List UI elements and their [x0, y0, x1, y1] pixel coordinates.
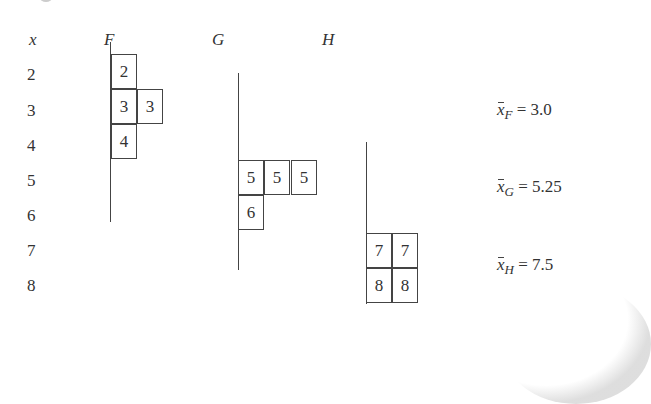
group-h-cell: 7	[366, 233, 392, 268]
mean-symbol: x	[497, 100, 505, 119]
mean-subscript: F	[505, 107, 513, 122]
scan-artifact	[40, 0, 52, 2]
group-h-cell: 8	[366, 268, 392, 303]
mean-value: = 3.0	[517, 100, 552, 119]
axis-label-x: x	[29, 30, 37, 50]
group-g-cell: 5	[264, 160, 290, 195]
row-label-5: 5	[27, 171, 41, 191]
mean-subscript: H	[505, 262, 514, 277]
row-label-4: 4	[27, 136, 41, 156]
group-label-g: G	[212, 30, 224, 50]
mean-f: xF = 3.0	[497, 100, 552, 121]
row-label-7: 7	[27, 241, 41, 261]
mean-h: xH = 7.5	[497, 255, 553, 276]
group-f-cell: 3	[137, 89, 163, 124]
mean-value: = 5.25	[518, 177, 562, 196]
group-f-cell: 2	[111, 54, 137, 89]
mean-g: xG = 5.25	[497, 177, 562, 198]
row-label-3: 3	[27, 101, 41, 121]
group-f-cell: 3	[111, 89, 137, 124]
group-h-cell: 7	[392, 233, 418, 268]
row-label-2: 2	[27, 65, 41, 85]
group-g-cell: 5	[238, 160, 264, 195]
group-h-cell: 8	[392, 268, 418, 303]
row-label-6: 6	[27, 206, 41, 226]
mean-symbol: x	[497, 177, 505, 196]
mean-symbol: x	[497, 255, 505, 274]
mean-subscript: G	[505, 184, 514, 199]
group-label-h: H	[322, 30, 334, 50]
group-f-cell: 4	[111, 124, 137, 159]
group-g-cell: 5	[291, 160, 317, 195]
page-curl-shadow	[501, 284, 651, 404]
group-g-cell: 6	[238, 195, 264, 230]
row-label-8: 8	[27, 276, 41, 296]
mean-value: = 7.5	[518, 255, 553, 274]
